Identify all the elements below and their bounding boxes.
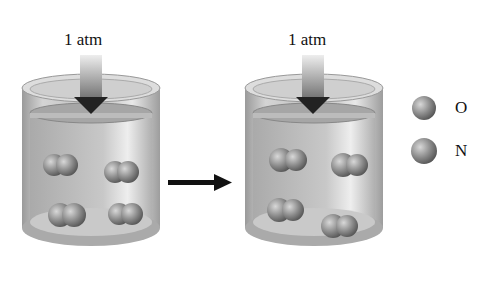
legend-label-n: N: [455, 141, 467, 161]
nitrogen-atom-icon: [411, 138, 437, 164]
legend: [411, 96, 437, 164]
oxygen-atom-icon: [412, 96, 436, 120]
legend-label-o: O: [455, 98, 467, 118]
right-pressure-label: 1 atm: [288, 30, 326, 50]
left-pressure-label: 1 atm: [64, 30, 102, 50]
right-arrow-icon: [168, 174, 232, 191]
